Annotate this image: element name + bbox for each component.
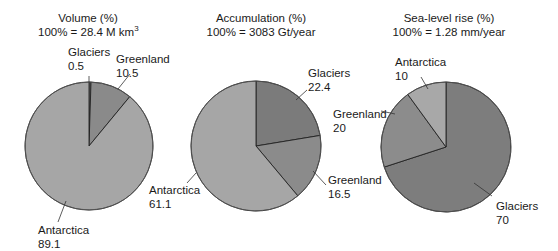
pie2-label-antarctica: Antarctica 61.1 <box>149 183 200 211</box>
pie2-label-glaciers: Glaciers 22.4 <box>308 66 350 94</box>
pie2-label-greenland: Greenland 16.5 <box>328 173 382 201</box>
pie1-slice-antarctica <box>25 82 153 210</box>
pie3-label-glaciers: Glaciers 70 <box>496 199 538 227</box>
pie2-leader-greenland <box>313 171 326 185</box>
pie3-label-greenland: Greenland 20 <box>333 107 387 135</box>
pie1-label-glaciers: Glaciers 0.5 <box>68 45 110 73</box>
pie2-leader-antarctica <box>187 173 196 183</box>
pie3-label-antarctica: Antarctica 10 <box>395 55 446 83</box>
pie1-label-antarctica: Antarctica 89.1 <box>38 223 89 251</box>
pie1-label-greenland: Greenland 10.5 <box>116 52 170 80</box>
pie2-leader-glaciers <box>296 90 307 100</box>
